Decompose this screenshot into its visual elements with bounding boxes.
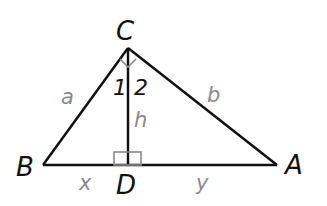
segment-x-label: x <box>78 171 92 195</box>
side-ca <box>128 48 277 165</box>
segment-y-label: y <box>195 171 209 195</box>
vertex-b-label: B <box>16 152 34 182</box>
vertex-d-label: D <box>116 170 136 200</box>
side-a-label: a <box>61 85 74 109</box>
vertex-a-label: A <box>283 150 303 180</box>
angle-1-label: 1 <box>113 75 127 100</box>
triangle-diagram: C B A D 1 2 a b h x y <box>0 0 327 206</box>
vertex-c-label: C <box>116 16 135 46</box>
side-cb <box>43 48 128 165</box>
altitude-h-label: h <box>134 108 147 132</box>
angle-2-label: 2 <box>134 75 148 100</box>
side-b-label: b <box>207 83 220 107</box>
